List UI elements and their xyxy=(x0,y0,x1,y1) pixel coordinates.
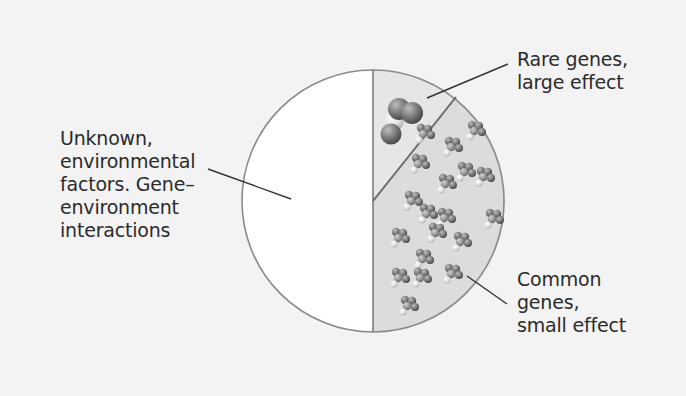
gene-effect-diagram: Unknown, environmental factors. Gene– en… xyxy=(0,0,686,396)
label-unknown-factors: Unknown, environmental factors. Gene– en… xyxy=(60,127,195,242)
label-line: large effect xyxy=(517,71,628,94)
segment-unknown xyxy=(242,70,373,332)
label-line: Common xyxy=(517,268,626,291)
label-line: environment xyxy=(60,196,195,219)
leader-line-common xyxy=(467,276,507,304)
label-line: genes, xyxy=(517,291,626,314)
label-common-genes: Common genes, small effect xyxy=(517,268,626,337)
label-line: factors. Gene– xyxy=(60,173,195,196)
label-line: Rare genes, xyxy=(517,48,628,71)
label-line: environmental xyxy=(60,150,195,173)
label-line: Unknown, xyxy=(60,127,195,150)
leader-line-rare xyxy=(427,64,508,98)
label-line: small effect xyxy=(517,314,626,337)
label-rare-genes: Rare genes, large effect xyxy=(517,48,628,94)
label-line: interactions xyxy=(60,219,195,242)
